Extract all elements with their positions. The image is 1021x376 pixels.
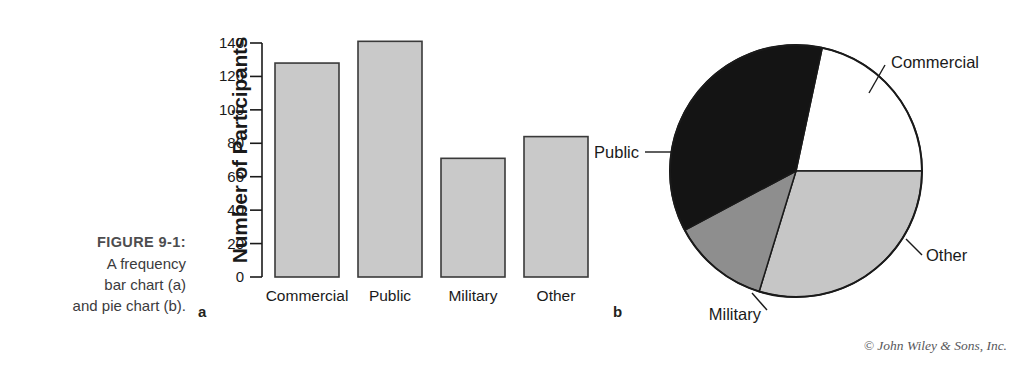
bar-chart-y-tick-label: 60 [227, 168, 244, 185]
bar-chart-category-label: Other [537, 287, 576, 304]
bar-chart-bar [441, 158, 505, 277]
bar-chart-y-tick-label: 100 [219, 101, 244, 118]
bar-chart-category-label: Military [448, 287, 497, 304]
bar-chart-bar [275, 63, 339, 277]
bar-chart-plot: 020406080100120140CommercialPublicMilita… [186, 10, 606, 320]
copyright-credit: © John Wiley & Sons, Inc. [864, 338, 1007, 354]
figure-caption-line-2: bar chart (a) [0, 274, 186, 295]
pie-chart-plot: CommercialOtherMilitaryPublic [595, 10, 1021, 340]
bar-chart-y-tick-label: 80 [227, 134, 244, 151]
figure-number-label: FIGURE 9-1: [0, 232, 186, 253]
pie-chart-panel: CommercialOtherMilitaryPublic [595, 10, 1021, 340]
figure-caption-line-1: A frequency [0, 253, 186, 274]
pie-chart-leader-line [906, 239, 922, 255]
pie-chart-slice-label: Military [709, 305, 762, 323]
bar-chart-panel: Number of Participants 02040608010012014… [186, 10, 606, 320]
bar-chart-category-label: Commercial [266, 287, 349, 304]
bar-chart-y-tick-label: 40 [227, 201, 244, 218]
bar-chart-y-tick-label: 20 [227, 235, 244, 252]
pie-chart-slice-label: Other [926, 246, 968, 264]
bar-chart-bar [524, 137, 588, 277]
bar-chart-bar [358, 41, 422, 277]
bar-chart-category-label: Public [369, 287, 411, 304]
pie-chart-slice-label: Public [595, 143, 639, 161]
bar-chart-y-tick-label: 120 [219, 67, 244, 84]
bar-chart-y-tick-label: 140 [219, 34, 244, 51]
figure-caption-line-3: and pie chart (b). [0, 295, 186, 316]
pie-chart-slice-label: Commercial [891, 53, 979, 71]
bar-chart-y-tick-label: 0 [236, 268, 244, 285]
figure-caption: FIGURE 9-1: A frequency bar chart (a) an… [0, 232, 186, 316]
